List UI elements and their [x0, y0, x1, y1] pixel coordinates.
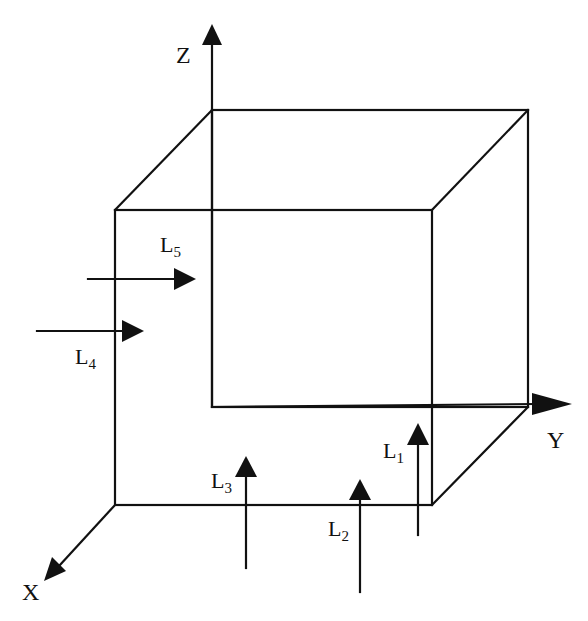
- cube-diagram: Z Y X L1 L2 L3 L4 L5: [0, 0, 588, 621]
- beam-l5-label: L5: [160, 232, 181, 260]
- cube-edge-top-right: [432, 110, 528, 210]
- y-axis-arrowhead-icon: [532, 393, 572, 415]
- z-axis-label: Z: [176, 42, 191, 68]
- x-axis-label: X: [22, 579, 39, 605]
- x-axis-line: [60, 505, 115, 565]
- cube-edge-top-left: [115, 110, 212, 210]
- y-axis-label: Y: [547, 427, 564, 453]
- beam-l4-label: L4: [75, 344, 96, 372]
- beam-l1-label: L1: [383, 438, 404, 466]
- cube-back-face: [212, 110, 528, 407]
- beam-l1-arrowhead-icon: [407, 423, 429, 445]
- cube-edge-bottom-right: [432, 407, 528, 505]
- beam-l2-arrowhead-icon: [349, 479, 371, 500]
- beam-l5-arrowhead-icon: [174, 268, 196, 290]
- beam-l4-arrowhead-icon: [122, 320, 144, 342]
- z-axis-arrowhead-icon: [202, 24, 222, 45]
- beam-l3-label: L3: [211, 468, 232, 496]
- beam-l2-label: L2: [328, 516, 349, 544]
- beam-l3-arrowhead-icon: [235, 456, 257, 477]
